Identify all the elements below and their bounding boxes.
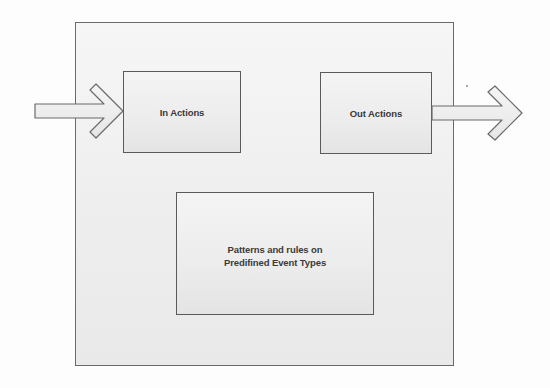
patterns-rules-label: Patterns and rules on Predifined Event T… <box>224 239 326 269</box>
out-actions-box: Out Actions <box>320 72 432 154</box>
diagram-canvas: In Actions Out Actions Patterns and rule… <box>0 0 550 388</box>
out-actions-label: Out Actions <box>350 107 402 120</box>
in-actions-box: In Actions <box>123 71 241 153</box>
patterns-rules-box: Patterns and rules on Predifined Event T… <box>176 192 374 315</box>
in-actions-label: In Actions <box>160 106 205 119</box>
scan-speck <box>466 85 468 87</box>
